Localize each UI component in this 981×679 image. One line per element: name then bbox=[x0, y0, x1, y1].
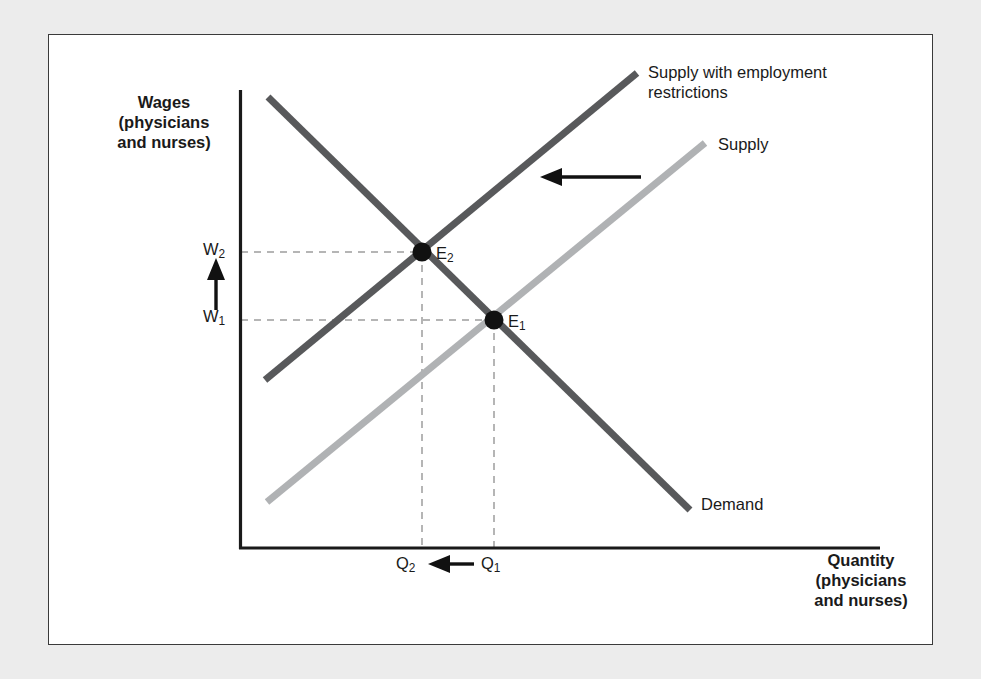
equilibrium-label-e1: E1 bbox=[508, 311, 526, 334]
equilibrium-point-e2 bbox=[413, 243, 432, 262]
quantity-decrease-arrow bbox=[428, 555, 474, 573]
supply-label: Supply bbox=[718, 134, 768, 154]
supply-with-restrictions-curve bbox=[265, 73, 637, 380]
wage-tick-label-w2: W2 bbox=[203, 239, 225, 262]
demand-label: Demand bbox=[701, 494, 763, 514]
supply-with-restrictions-label: Supply with employmentrestrictions bbox=[648, 62, 827, 103]
quantity-tick-label-q1: Q1 bbox=[481, 553, 500, 576]
supply-shift-arrow bbox=[540, 168, 641, 186]
y-axis-title: Wages(physiciansand nurses) bbox=[98, 92, 230, 152]
equilibrium-point-e1 bbox=[485, 311, 504, 330]
x-axis-title: Quantity(physiciansand nurses) bbox=[786, 550, 936, 610]
wage-tick-label-w1: W1 bbox=[203, 306, 225, 329]
wage-increase-arrow bbox=[207, 258, 225, 310]
equilibrium-label-e2: E2 bbox=[436, 243, 454, 266]
quantity-tick-label-q2: Q2 bbox=[396, 553, 415, 576]
